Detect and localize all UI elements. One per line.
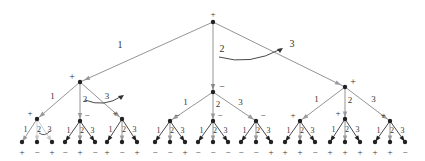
leaf-sign: + <box>327 147 332 157</box>
leaf-node <box>196 140 200 144</box>
leaf-sign: − <box>195 147 200 157</box>
edge-label: 3 <box>356 125 360 134</box>
leaf-node <box>283 140 287 144</box>
edge-arrow-icon <box>335 80 341 85</box>
edge-label: 2 <box>83 94 88 104</box>
edge-label: 1 <box>183 97 188 107</box>
edge-label: 3 <box>133 125 137 134</box>
leaf-sign: − <box>312 147 317 157</box>
leaf-node <box>298 140 302 144</box>
leaf-sign: − <box>167 147 172 157</box>
edge-label: 3 <box>48 125 52 134</box>
edge-arrow-icon <box>248 114 254 119</box>
leaf-node <box>63 140 67 144</box>
edge-arrow-icon <box>84 76 90 80</box>
leaf-node <box>120 140 124 144</box>
root-node <box>211 20 215 24</box>
level2-node <box>254 119 258 123</box>
edge-label: 3 <box>238 97 243 107</box>
edge-label: 3 <box>224 126 228 135</box>
leaf-sign: − <box>62 147 67 157</box>
edge-label: 1 <box>377 126 381 135</box>
edge-label: 1 <box>157 126 161 135</box>
edge-label: 3 <box>401 126 405 135</box>
level2-node <box>388 119 392 123</box>
leaf-node <box>239 140 243 144</box>
level2-node <box>211 119 215 123</box>
leaf-node <box>183 140 187 144</box>
node-sign: − <box>219 81 225 92</box>
leaf-sign: − <box>92 147 97 157</box>
leaf-sign: + <box>282 147 287 157</box>
node-sign: − <box>217 110 222 120</box>
leaf-sign: + <box>387 147 392 157</box>
leaf-node <box>78 140 82 144</box>
level1-node <box>343 85 347 89</box>
leaf-node <box>373 140 377 144</box>
level2-node <box>168 119 172 123</box>
node-sign: − <box>174 110 179 120</box>
leaf-sign: − <box>119 147 124 157</box>
edge-label: 1 <box>287 126 291 135</box>
edge-label: 1 <box>50 91 55 101</box>
level2-node <box>78 119 82 123</box>
leaf-sign: − <box>225 147 230 157</box>
edge-label: 3 <box>267 126 271 135</box>
leaf-sign: − <box>152 147 157 157</box>
edge-arrow-icon <box>343 111 347 117</box>
leaf-sign: + <box>342 147 347 157</box>
leaf-sign: + <box>182 147 187 157</box>
level1-node <box>78 80 82 84</box>
edge-label: 1 <box>24 125 28 134</box>
edge-label: 2 <box>390 126 394 135</box>
leaf-node <box>168 140 172 144</box>
edge-label: 2 <box>345 125 349 134</box>
edge-label: 2 <box>220 43 225 54</box>
leaf-node <box>211 140 215 144</box>
leaf-sign: − <box>34 147 39 157</box>
leaf-node <box>313 140 317 144</box>
edge-arrow-icon <box>78 113 82 119</box>
edge-label: 2 <box>348 95 353 105</box>
level1-node <box>211 90 215 94</box>
leaf-sign: − <box>210 147 215 157</box>
node-sign: − <box>84 110 89 120</box>
edge-label: 2 <box>216 99 221 109</box>
level2-node <box>343 117 347 121</box>
level2-node <box>120 117 124 121</box>
root-sign: + <box>210 9 215 19</box>
leaf-node <box>50 140 54 144</box>
leaf-sign: + <box>49 147 54 157</box>
node-sign: + <box>380 110 385 120</box>
edge-label: 2 <box>300 126 304 135</box>
edge-label: 1 <box>243 126 247 135</box>
edge-label: 3 <box>290 38 295 49</box>
edge-arrow-icon <box>302 114 308 119</box>
leaf-sign: + <box>19 147 24 157</box>
level2-node <box>298 119 302 123</box>
edge-label: 3 <box>105 91 110 101</box>
leaf-node <box>343 140 347 144</box>
leaf-sign: − <box>402 147 407 157</box>
game-tree-diagram: 123123123123+1−2+3+−1+2−3−+1−2+3+−1−2+3−… <box>0 0 425 161</box>
leaf-sign: + <box>268 147 273 157</box>
node-sign: + <box>350 76 356 87</box>
edge-label: 1 <box>200 126 204 135</box>
selection-arcs <box>39 48 283 135</box>
node-sign: + <box>290 110 295 120</box>
leaf-node <box>226 140 230 144</box>
edge-label: 1 <box>314 94 319 104</box>
edge-label: 2 <box>37 125 41 134</box>
leaf-sign: + <box>104 147 109 157</box>
edge-label: 3 <box>181 126 185 135</box>
leaf-node <box>358 140 362 144</box>
tree-labels: 123123123123+1−2+3+−1+2−3−+1−2+3+−1−2+3−… <box>19 9 407 157</box>
leaf-sign: + <box>297 147 302 157</box>
edge-arrow-icon <box>211 114 215 120</box>
leaf-node <box>35 140 39 144</box>
leaf-sign: + <box>357 147 362 157</box>
edge-label: 2 <box>80 126 84 135</box>
edge-root-to-l1 <box>80 22 213 82</box>
leaf-sign: + <box>77 147 82 157</box>
level2-node <box>35 117 39 121</box>
